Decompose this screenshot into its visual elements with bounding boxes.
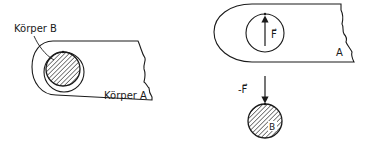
contact-point-right: [264, 13, 266, 15]
label-body-a-right: A: [336, 47, 343, 58]
label-reaction-force: -F⃗: [238, 83, 248, 95]
contact-point-left: [62, 51, 64, 53]
label-body-b: Körper B: [14, 23, 57, 34]
right-figure: F⃗ A -F⃗ B: [214, 4, 354, 138]
label-body-a: Körper A: [104, 90, 147, 101]
contact-point-b-right: [264, 103, 266, 105]
left-figure: Körper B Körper A: [14, 23, 152, 101]
body-b-left: [46, 52, 80, 86]
diagram-canvas: Körper B Körper A F⃗ A -F⃗ B: [0, 0, 367, 148]
label-force: F⃗: [271, 28, 277, 40]
label-body-b-right: B: [269, 122, 275, 132]
